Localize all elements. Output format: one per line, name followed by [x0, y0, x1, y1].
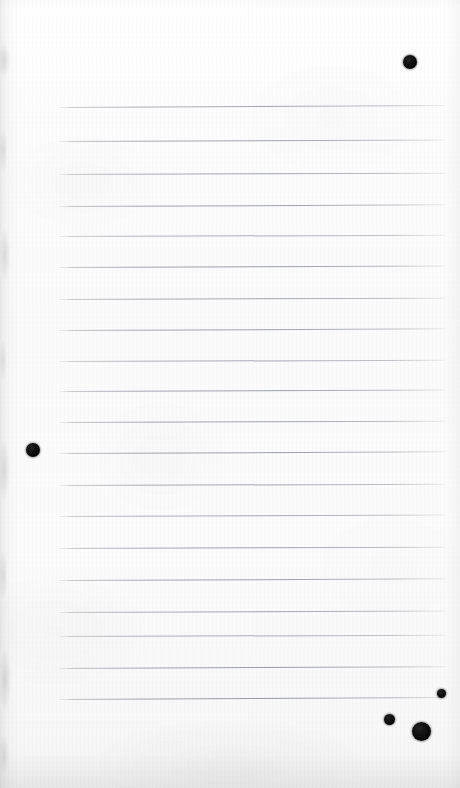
ink-dot-left-margin [26, 443, 40, 457]
ruled-line [57, 105, 448, 108]
ruled-line [57, 139, 448, 142]
ink-dot-bottom-small [437, 689, 446, 698]
ruled-line [57, 451, 448, 454]
ruled-line [57, 235, 448, 237]
ruled-line [57, 389, 448, 392]
scanned-page-canvas [0, 0, 460, 788]
ruled-line [57, 610, 448, 613]
ruled-line [57, 360, 448, 362]
ink-dot-bottom-mid [384, 714, 395, 725]
ruled-line [57, 204, 448, 207]
ruled-line [57, 484, 448, 486]
ruled-line [57, 328, 448, 331]
ruled-line [57, 697, 448, 700]
ruled-lines-layer [0, 0, 460, 788]
ruled-line [57, 173, 448, 175]
ruled-line [57, 635, 448, 637]
ruled-line [57, 578, 448, 581]
ruled-line [57, 666, 448, 669]
ruled-line [57, 514, 448, 517]
ink-dot-bottom-large [412, 722, 431, 741]
ruled-line [57, 298, 448, 300]
ruled-line [57, 265, 448, 268]
ruled-line [57, 421, 448, 423]
ink-dot-top-right [403, 55, 417, 69]
ruled-line [57, 547, 448, 549]
